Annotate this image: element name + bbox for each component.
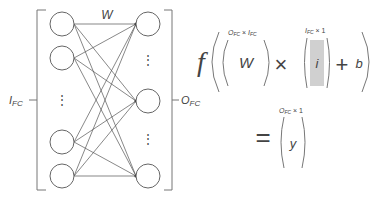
connection-edge — [74, 101, 136, 176]
vector-y-dim: OFC × 1 — [279, 107, 303, 115]
input-bracket — [37, 10, 46, 190]
input-neuron — [50, 12, 74, 36]
outer-paren-left — [212, 32, 219, 92]
output-ellipsis-bottom: ⋮ — [142, 132, 154, 146]
input-neuron — [50, 46, 74, 70]
vector-i-paren-right — [327, 38, 330, 88]
plus-sign: + — [336, 52, 349, 77]
connection-edge — [74, 58, 136, 176]
input-size-label: IFC — [9, 94, 23, 108]
equals-sign: = — [255, 122, 270, 152]
matrix-w-paren-right — [264, 40, 269, 86]
weight-label: W — [101, 8, 114, 22]
output-neuron — [136, 12, 160, 36]
activation-function: f — [197, 46, 208, 77]
input-neuron — [50, 130, 74, 154]
multiply-sign: × — [275, 52, 288, 77]
bias: b — [355, 56, 362, 71]
matrix-w-paren-left — [223, 40, 228, 86]
vector-i-dim: IFC × 1 — [305, 27, 326, 35]
vector-y-paren-left — [281, 117, 284, 168]
connection-edge — [74, 58, 136, 101]
vector-y-paren-right — [302, 117, 305, 168]
output-ellipsis-top: ⋮ — [142, 53, 154, 67]
connections — [74, 22, 138, 177]
vector-y: y — [289, 136, 298, 151]
connection-edge — [74, 24, 136, 142]
output-bracket — [164, 10, 172, 190]
matrix-w-dim: OFC × IFC — [228, 29, 257, 37]
output-neuron — [136, 89, 160, 113]
connection-edge — [74, 24, 136, 101]
input-neuron — [50, 164, 74, 188]
outer-paren-right — [362, 32, 369, 92]
vector-i-paren-left — [305, 38, 308, 88]
connection-edge — [74, 101, 136, 142]
fc-layer-diagram: ⋮ ⋮ ⋮ W IFC OFC f W OFC × IFC × i IFC × … — [0, 0, 386, 200]
output-size-label: OFC — [181, 94, 200, 108]
output-neuron — [136, 164, 160, 188]
input-ellipsis: ⋮ — [56, 93, 68, 107]
matrix-w: W — [239, 54, 255, 71]
